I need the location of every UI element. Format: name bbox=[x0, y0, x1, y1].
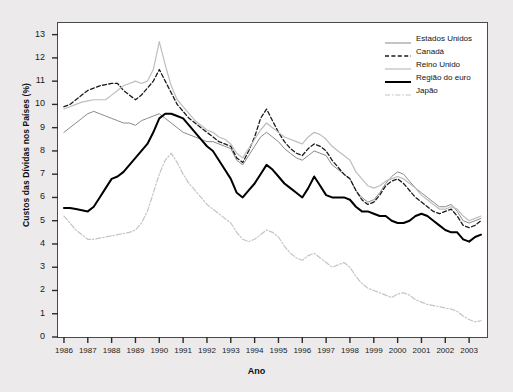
x-tick-label: 2003 bbox=[454, 347, 484, 355]
legend-label: Reino Unido bbox=[416, 60, 460, 69]
y-tick-label: 12 bbox=[25, 53, 45, 62]
y-tick-label: 13 bbox=[25, 30, 45, 39]
chart-legend: Estados UnidosCanadáReino UnidoRegião do… bbox=[385, 32, 497, 97]
x-axis-ticks bbox=[64, 337, 469, 343]
legend-item[interactable]: Japão bbox=[385, 84, 497, 97]
legend-line-icon bbox=[385, 47, 411, 57]
chart-figure: 012345678910111213 198619871988198919901… bbox=[0, 0, 513, 392]
legend-label: Região do euro bbox=[416, 73, 471, 82]
legend-item[interactable]: Região do euro bbox=[385, 71, 497, 84]
y-tick-label: 2 bbox=[25, 285, 45, 294]
y-axis-title: Custos das Dívidas nos Países (%) bbox=[21, 75, 31, 235]
y-tick-label: 4 bbox=[25, 239, 45, 248]
series-line bbox=[64, 114, 481, 242]
legend-line-icon bbox=[385, 60, 411, 70]
y-axis-ticks bbox=[52, 35, 58, 337]
legend-label: Canadá bbox=[416, 47, 444, 56]
legend-item[interactable]: Estados Unidos bbox=[385, 32, 497, 45]
y-tick-label: 1 bbox=[25, 309, 45, 318]
legend-item[interactable]: Reino Unido bbox=[385, 58, 497, 71]
series-line bbox=[64, 153, 481, 322]
y-tick-label: 0 bbox=[25, 332, 45, 341]
y-tick-label: 3 bbox=[25, 262, 45, 271]
legend-label: Japão bbox=[416, 86, 438, 95]
x-axis-title: Ano bbox=[0, 366, 513, 376]
legend-item[interactable]: Canadá bbox=[385, 45, 497, 58]
legend-line-icon bbox=[385, 86, 411, 96]
legend-line-icon bbox=[385, 34, 411, 44]
legend-label: Estados Unidos bbox=[416, 34, 472, 43]
legend-line-icon bbox=[385, 73, 411, 83]
